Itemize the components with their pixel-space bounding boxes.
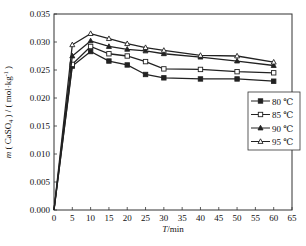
y-tick-label: 0.035 bbox=[30, 9, 51, 19]
data-point bbox=[235, 58, 240, 63]
data-point bbox=[235, 77, 239, 81]
y-axis-title-part: ) / ( mol·kg bbox=[3, 76, 13, 120]
x-axis-title: T/min bbox=[162, 224, 184, 234]
y-axis: 0.0000.0050.0100.0150.0200.0250.0300.035 bbox=[30, 9, 57, 215]
data-point bbox=[125, 54, 129, 58]
series-85c bbox=[54, 44, 276, 210]
data-point bbox=[88, 38, 93, 43]
x-tick-label: 40 bbox=[196, 213, 206, 223]
data-point bbox=[143, 72, 147, 76]
data-point bbox=[162, 76, 166, 80]
legend-label: 90 ℃ bbox=[272, 124, 293, 134]
data-point bbox=[198, 77, 202, 81]
x-axis-title-unit: /min bbox=[167, 224, 184, 234]
x-tick-label: 65 bbox=[288, 213, 298, 223]
series-95c bbox=[54, 31, 276, 210]
x-tick-label: 15 bbox=[104, 213, 114, 223]
data-point bbox=[198, 67, 202, 71]
data-point bbox=[198, 53, 203, 58]
data-point bbox=[88, 44, 92, 48]
data-point bbox=[271, 59, 276, 64]
x-tick-label: 25 bbox=[141, 213, 151, 223]
x-tick-label: 55 bbox=[251, 213, 261, 223]
data-point bbox=[162, 67, 166, 71]
x-tick-label: 5 bbox=[70, 213, 75, 223]
x-tick-label: 20 bbox=[123, 213, 133, 223]
data-point bbox=[125, 63, 129, 67]
data-point bbox=[235, 53, 240, 58]
data-point bbox=[143, 45, 148, 50]
data-point bbox=[143, 59, 147, 63]
x-tick-label: 0 bbox=[52, 213, 57, 223]
legend: 80 ℃85 ℃90 ℃95 ℃ bbox=[248, 92, 300, 150]
data-point bbox=[88, 49, 92, 53]
legend-marker bbox=[258, 112, 262, 116]
x-tick-label: 45 bbox=[214, 213, 224, 223]
legend-label: 80 ℃ bbox=[272, 97, 293, 107]
series-90c bbox=[54, 38, 276, 210]
data-point bbox=[271, 71, 275, 75]
x-tick-label: 10 bbox=[86, 213, 96, 223]
data-point bbox=[107, 52, 111, 56]
y-tick-label: 0.025 bbox=[30, 65, 51, 75]
y-axis-title-part: ) bbox=[3, 66, 13, 71]
series-80c bbox=[54, 49, 276, 210]
data-point bbox=[106, 44, 111, 49]
data-point bbox=[125, 41, 130, 46]
series-layer bbox=[54, 31, 276, 210]
data-point bbox=[107, 59, 111, 63]
data-point bbox=[125, 47, 130, 52]
data-point bbox=[235, 69, 239, 73]
x-tick-label: 35 bbox=[178, 213, 188, 223]
x-tick-label: 30 bbox=[159, 213, 169, 223]
y-tick-label: 0.005 bbox=[30, 177, 51, 187]
y-tick-label: 0.030 bbox=[30, 37, 51, 47]
y-tick-label: 0.015 bbox=[30, 121, 51, 131]
data-point bbox=[106, 36, 111, 41]
legend-marker bbox=[258, 99, 262, 103]
chart: 05101520253035404550556065 0.0000.0050.0… bbox=[0, 0, 306, 246]
data-point bbox=[271, 79, 275, 83]
y-tick-label: 0.000 bbox=[30, 205, 51, 215]
x-tick-label: 60 bbox=[269, 213, 279, 223]
data-point bbox=[161, 48, 166, 53]
y-axis-title: m ( CaSO4 ) / ( mol·kg-1 ) bbox=[3, 66, 14, 158]
series-line bbox=[54, 34, 274, 210]
y-tick-label: 0.010 bbox=[30, 149, 51, 159]
x-axis: 05101520253035404550556065 bbox=[52, 207, 297, 223]
data-point bbox=[88, 31, 93, 36]
data-point bbox=[70, 42, 75, 47]
x-tick-label: 50 bbox=[233, 213, 243, 223]
y-tick-label: 0.020 bbox=[30, 93, 51, 103]
legend-label: 95 ℃ bbox=[272, 137, 293, 147]
y-axis-title-part: ( CaSO bbox=[3, 122, 13, 152]
legend-label: 85 ℃ bbox=[272, 110, 293, 120]
